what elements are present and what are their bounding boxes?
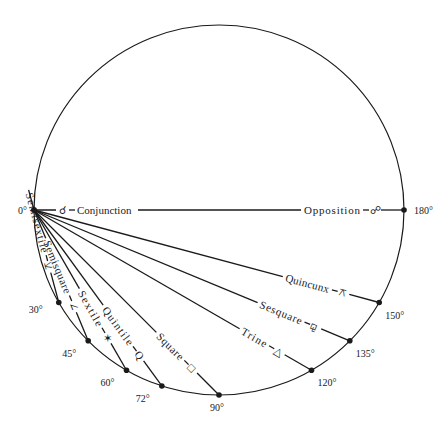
degree-labels: 30°45°60°72°90°120°135°150°180° <box>29 205 433 413</box>
quintile-line-mid <box>133 346 137 351</box>
conjunction-label: Conjunction <box>77 204 132 216</box>
trine-label: Trine <box>239 325 269 349</box>
degree-label-120: 120° <box>318 377 337 388</box>
quincunx-point <box>376 300 382 306</box>
conjunction-symbol-icon: ☌ <box>59 204 66 216</box>
opposition-point <box>401 207 407 213</box>
degree-label-180: 180° <box>414 205 433 216</box>
sesquare-line-end <box>321 329 350 341</box>
square-point <box>216 392 222 398</box>
trine-line-end <box>285 355 312 371</box>
square-line-end <box>197 373 219 395</box>
quintile-symbol-icon: Q <box>132 348 146 362</box>
sextile-point <box>124 367 130 373</box>
degree-label-60: 60° <box>101 377 115 388</box>
degree-label-90: 90° <box>210 402 224 413</box>
aspect-lines: Semisextile⚺Semisquare∠Sextile✶QuintileQ… <box>23 188 407 399</box>
origin-degree-label: 0° <box>18 205 27 216</box>
degree-label-45: 45° <box>62 348 76 359</box>
sesquare-label: Sesquare <box>258 298 304 326</box>
semisquare-line-end <box>76 312 88 341</box>
opposition-label: Opposition <box>304 204 361 216</box>
semisextile-point <box>56 300 62 306</box>
semisquare-point <box>85 338 91 344</box>
opposition-symbol-icon: ☍ <box>370 204 381 216</box>
trine-symbol-icon: △ <box>272 344 286 359</box>
degree-label-72: 72° <box>136 393 150 404</box>
degree-label-135: 135° <box>356 348 375 359</box>
semisquare-symbol-icon: ∠ <box>67 300 82 313</box>
quintile-point <box>159 383 165 389</box>
degree-label-30: 30° <box>29 304 43 315</box>
trine-point <box>309 367 315 373</box>
degree-label-150: 150° <box>385 310 404 321</box>
origin-point <box>31 207 37 213</box>
sextile-symbol-icon: ✶ <box>100 331 115 345</box>
quincunx-line-start <box>34 210 283 277</box>
quincunx-line-end <box>349 294 379 302</box>
sesquare-symbol-icon: ⚼ <box>309 319 321 333</box>
sesquare-line-mid <box>305 322 311 324</box>
trine-line-mid <box>269 346 274 349</box>
sesquare-point <box>347 338 353 344</box>
square-label: Square <box>154 330 186 362</box>
sextile-line-mid <box>102 328 105 333</box>
quincunx-line-mid <box>332 290 338 292</box>
aspect-circle-diagram: Semisextile⚺Semisquare∠Sextile✶QuintileQ… <box>0 0 446 430</box>
semisquare-line-mid <box>69 296 71 302</box>
aspect-labels: ☌Conjunction <box>56 203 138 216</box>
quincunx-symbol-icon: ⚻ <box>337 286 347 299</box>
aspect-chord-quintile: QuintileQ <box>29 206 167 389</box>
quincunx-label: Quincunx <box>284 272 331 295</box>
square-line-mid <box>184 360 188 364</box>
